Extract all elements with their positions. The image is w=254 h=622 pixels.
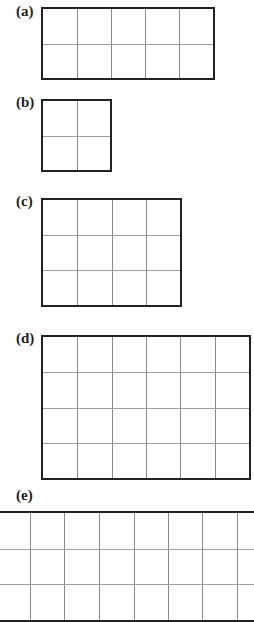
figure-label: (a) bbox=[16, 4, 34, 19]
grid-line-vertical bbox=[64, 513, 65, 620]
grid-line-vertical bbox=[168, 513, 169, 620]
grid-line-vertical bbox=[30, 513, 31, 620]
figure-label: (d) bbox=[16, 331, 34, 346]
grid-line-horizontal bbox=[43, 44, 213, 45]
grid-line-vertical bbox=[112, 200, 113, 305]
figure-label: (e) bbox=[16, 488, 33, 503]
grid-line-horizontal bbox=[43, 235, 180, 236]
figure-label: (c) bbox=[16, 194, 33, 209]
grid-figure bbox=[41, 198, 182, 307]
grid-line-horizontal bbox=[43, 270, 180, 271]
grid-line-vertical bbox=[134, 513, 135, 620]
grid-line-vertical bbox=[99, 513, 100, 620]
grid-line-vertical bbox=[77, 200, 78, 305]
grid-line-horizontal bbox=[43, 408, 249, 409]
grid-figure bbox=[41, 99, 112, 172]
grid-line-vertical bbox=[202, 513, 203, 620]
grid-figure bbox=[0, 511, 254, 622]
grid-figure bbox=[41, 335, 251, 480]
grid-line-horizontal bbox=[43, 443, 249, 444]
grid-line-vertical bbox=[237, 513, 238, 620]
grid-line-vertical bbox=[146, 200, 147, 305]
grid-line-horizontal bbox=[0, 549, 254, 550]
grid-line-horizontal bbox=[43, 136, 110, 137]
grid-line-horizontal bbox=[0, 584, 254, 585]
grid-figure bbox=[41, 7, 215, 80]
figure-label: (b) bbox=[16, 95, 34, 110]
grid-line-horizontal bbox=[43, 372, 249, 373]
